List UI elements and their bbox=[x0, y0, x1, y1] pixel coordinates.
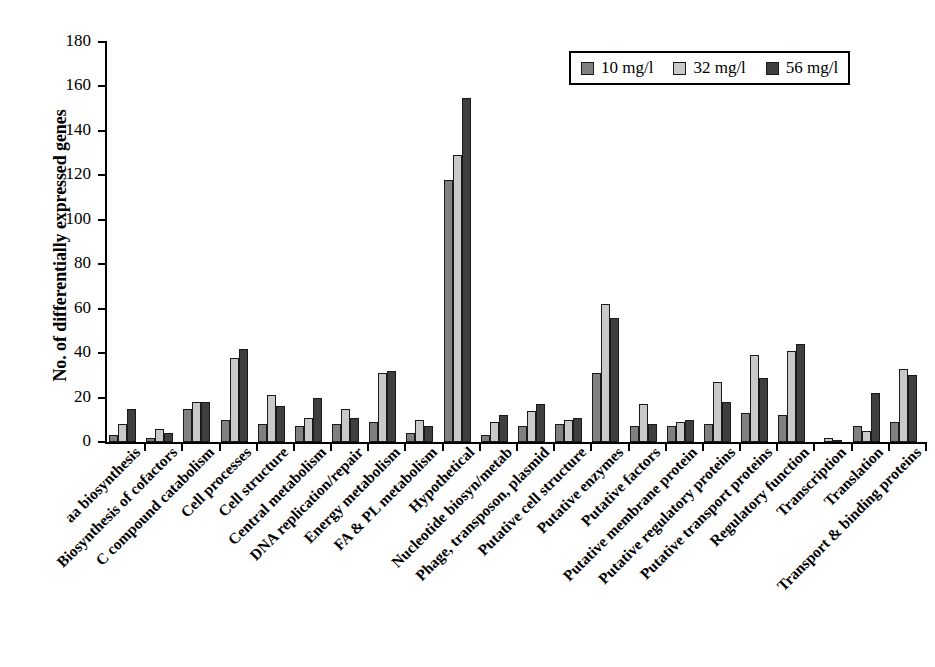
bar bbox=[192, 402, 201, 442]
bar-group bbox=[888, 42, 925, 442]
bar bbox=[127, 409, 136, 442]
bar-group bbox=[256, 42, 293, 442]
y-axis-tick-label: 180 bbox=[66, 31, 92, 51]
y-axis-tick-mark bbox=[98, 174, 107, 176]
bar bbox=[453, 155, 462, 442]
bar bbox=[787, 351, 796, 442]
bar bbox=[890, 422, 899, 442]
y-axis-tick-mark bbox=[98, 130, 107, 132]
bar bbox=[778, 415, 787, 442]
bar bbox=[601, 304, 610, 442]
y-axis-tick-label: 20 bbox=[74, 387, 91, 407]
bar bbox=[230, 358, 239, 442]
y-axis-tick-label: 80 bbox=[74, 253, 91, 273]
bar bbox=[750, 355, 759, 442]
bar bbox=[685, 420, 694, 442]
bar bbox=[369, 422, 378, 442]
bar bbox=[424, 426, 433, 442]
bar-group bbox=[553, 42, 590, 442]
bar bbox=[267, 395, 276, 442]
plot-area: 020406080100120140160180 bbox=[105, 42, 925, 444]
bar bbox=[164, 433, 173, 442]
bar-group bbox=[367, 42, 404, 442]
bar-group bbox=[404, 42, 441, 442]
legend-label: 56 mg/l bbox=[786, 58, 838, 78]
bar bbox=[350, 418, 359, 442]
y-axis-tick-label: 120 bbox=[66, 164, 92, 184]
legend-swatch-32-icon bbox=[673, 62, 686, 75]
y-axis-tick-mark bbox=[98, 85, 107, 87]
bar-group bbox=[702, 42, 739, 442]
legend-swatch-10-icon bbox=[581, 62, 594, 75]
bar bbox=[118, 424, 127, 442]
bar bbox=[258, 424, 267, 442]
bar bbox=[341, 409, 350, 442]
bar bbox=[630, 426, 639, 442]
bar bbox=[648, 424, 657, 442]
bar-group bbox=[479, 42, 516, 442]
y-axis-tick-mark bbox=[98, 263, 107, 265]
x-axis-labels: aa biosynthesisBiosynthesis of cofactors… bbox=[105, 444, 935, 667]
legend-label: 10 mg/l bbox=[601, 58, 653, 78]
y-axis-tick-mark bbox=[98, 308, 107, 310]
y-axis-tick-label: 100 bbox=[66, 209, 92, 229]
bar bbox=[527, 411, 536, 442]
bar bbox=[444, 180, 453, 442]
bar bbox=[221, 420, 230, 442]
bar bbox=[378, 373, 387, 442]
bar bbox=[713, 382, 722, 442]
bar bbox=[741, 413, 750, 442]
bar bbox=[908, 375, 917, 442]
bar bbox=[573, 418, 582, 442]
bar-group bbox=[776, 42, 813, 442]
bar bbox=[155, 429, 164, 442]
bar bbox=[833, 440, 842, 442]
bar bbox=[610, 318, 619, 442]
bar bbox=[592, 373, 601, 442]
bar-series-container bbox=[107, 42, 925, 442]
bar bbox=[899, 369, 908, 442]
bar-group bbox=[813, 42, 850, 442]
bar bbox=[146, 438, 155, 442]
bar bbox=[481, 435, 490, 442]
bar-group bbox=[293, 42, 330, 442]
bar bbox=[639, 404, 648, 442]
y-axis-title: No. of differentially expressed genes bbox=[50, 36, 71, 456]
bar bbox=[415, 420, 424, 442]
legend-swatch-56-icon bbox=[766, 62, 779, 75]
y-axis-tick-label: 40 bbox=[74, 342, 91, 362]
y-axis-tick-mark bbox=[98, 397, 107, 399]
bar bbox=[564, 420, 573, 442]
bar bbox=[313, 398, 322, 442]
bar-group bbox=[851, 42, 888, 442]
legend-entry: 56 mg/l bbox=[766, 58, 838, 78]
bar bbox=[676, 422, 685, 442]
bar bbox=[796, 344, 805, 442]
bar-group bbox=[665, 42, 702, 442]
bar-group bbox=[144, 42, 181, 442]
bar bbox=[332, 424, 341, 442]
bar bbox=[387, 371, 396, 442]
bar bbox=[499, 415, 508, 442]
bar bbox=[824, 438, 833, 442]
bar bbox=[853, 426, 862, 442]
bar-group bbox=[107, 42, 144, 442]
bar-group bbox=[219, 42, 256, 442]
legend-entry: 32 mg/l bbox=[673, 58, 745, 78]
bar-group bbox=[181, 42, 218, 442]
bar bbox=[555, 424, 564, 442]
bar bbox=[518, 426, 527, 442]
bar bbox=[862, 431, 871, 442]
chart-legend: 10 mg/l32 mg/l56 mg/l bbox=[569, 51, 850, 85]
bar bbox=[406, 433, 415, 442]
bar bbox=[759, 378, 768, 442]
y-axis-tick-label: 60 bbox=[74, 298, 91, 318]
bar bbox=[490, 422, 499, 442]
bar bbox=[239, 349, 248, 442]
bar-group bbox=[628, 42, 665, 442]
y-axis-tick-label: 0 bbox=[83, 431, 92, 451]
y-axis-tick-mark bbox=[98, 219, 107, 221]
bar bbox=[704, 424, 713, 442]
bar bbox=[536, 404, 545, 442]
y-axis-tick-mark bbox=[98, 41, 107, 43]
